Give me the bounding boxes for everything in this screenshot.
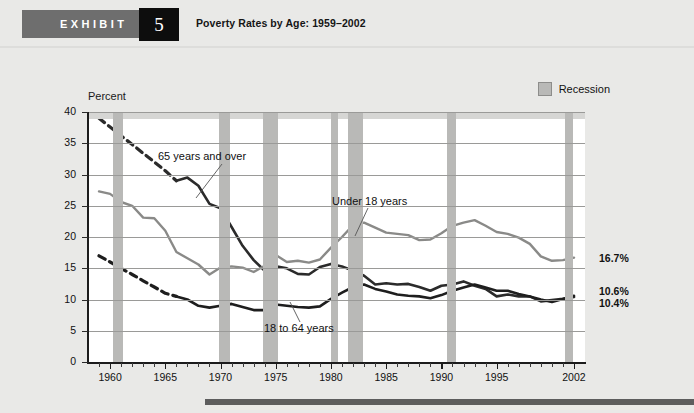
x-tick-mark-minor xyxy=(375,363,376,367)
gridline xyxy=(88,237,585,238)
chart-legend: Recession xyxy=(538,82,610,96)
legend-label-recession: Recession xyxy=(559,83,610,95)
x-tick-mark-minor xyxy=(408,363,409,367)
x-tick-mark-minor xyxy=(265,363,266,367)
annotation-65-and-over: 65 years and over xyxy=(158,150,246,162)
y-tick-label: 15 xyxy=(36,261,76,273)
y-tick-label: 20 xyxy=(36,230,76,242)
x-tick-mark-major xyxy=(165,363,166,369)
x-tick-mark-major xyxy=(110,363,111,369)
y-tick-mark xyxy=(82,268,88,269)
x-tick-mark-minor xyxy=(209,363,210,367)
x-tick-label: 1975 xyxy=(251,371,301,383)
page-title: Poverty Rates by Age: 1959–2002 xyxy=(196,17,366,29)
x-tick-mark-minor xyxy=(232,363,233,367)
x-tick-mark-minor xyxy=(353,363,354,367)
x-tick-mark-minor xyxy=(508,363,509,367)
y-tick-mark xyxy=(82,143,88,144)
x-tick-mark-minor xyxy=(254,363,255,367)
exhibit-page: EXHIBIT 5 Poverty Rates by Age: 1959–200… xyxy=(0,0,694,413)
poverty-rates-chart: Percent Recession 0510152025303540 19601… xyxy=(0,50,694,390)
series-line xyxy=(99,256,176,297)
x-tick-mark-minor xyxy=(320,363,321,367)
x-tick-mark-minor xyxy=(309,363,310,367)
y-tick-label: 35 xyxy=(36,136,76,148)
x-tick-mark-minor xyxy=(519,363,520,367)
x-tick-mark-minor xyxy=(475,363,476,367)
exhibit-number-box: 5 xyxy=(139,8,179,41)
x-tick-mark-minor xyxy=(298,363,299,367)
x-tick-mark-minor xyxy=(552,363,553,367)
y-tick-mark xyxy=(82,331,88,332)
end-label-65-and-over: 10.4% xyxy=(599,297,629,309)
x-tick-mark-minor xyxy=(364,363,365,367)
x-tick-mark-major xyxy=(386,363,387,369)
x-tick-mark-minor xyxy=(342,363,343,367)
gridline xyxy=(88,268,585,269)
x-tick-label: 1960 xyxy=(85,371,135,383)
x-tick-mark-minor xyxy=(430,363,431,367)
footer-bar xyxy=(205,399,694,405)
gridline xyxy=(88,331,585,332)
y-tick-label: 10 xyxy=(36,293,76,305)
exhibit-number: 5 xyxy=(139,8,179,41)
y-tick-mark xyxy=(82,237,88,238)
x-tick-label: 1990 xyxy=(416,371,466,383)
gridline xyxy=(88,112,585,113)
gridline xyxy=(88,143,585,144)
x-tick-mark-minor xyxy=(243,363,244,367)
x-axis xyxy=(87,362,586,364)
y-tick-mark xyxy=(82,362,88,363)
series-line xyxy=(176,285,574,311)
y-tick-mark xyxy=(82,206,88,207)
x-tick-mark-minor xyxy=(187,363,188,367)
x-tick-mark-major xyxy=(331,363,332,369)
y-tick-label: 25 xyxy=(36,199,76,211)
y-tick-label: 30 xyxy=(36,168,76,180)
y-tick-mark xyxy=(82,175,88,176)
x-tick-mark-minor xyxy=(464,363,465,367)
y-tick-label: 5 xyxy=(36,324,76,336)
x-tick-mark-minor xyxy=(452,363,453,367)
annotation-18-to-64: 18 to 64 years xyxy=(264,322,334,334)
x-tick-label: 1985 xyxy=(361,371,411,383)
x-tick-mark-major xyxy=(497,363,498,369)
recession-swatch xyxy=(538,82,552,96)
gridline xyxy=(88,300,585,301)
x-tick-mark-minor xyxy=(397,363,398,367)
y-tick-label: 40 xyxy=(36,105,76,117)
x-tick-mark-minor xyxy=(419,363,420,367)
x-tick-mark-major xyxy=(221,363,222,369)
x-tick-mark-minor xyxy=(132,363,133,367)
x-tick-label: 1995 xyxy=(472,371,522,383)
y-tick-mark xyxy=(82,300,88,301)
x-tick-mark-minor xyxy=(99,363,100,367)
y-tick-label: 0 xyxy=(36,355,76,367)
x-tick-label: 2002 xyxy=(549,371,599,383)
x-tick-mark-minor xyxy=(176,363,177,367)
annotation-under-18: Under 18 years xyxy=(332,195,407,207)
y-tick-mark xyxy=(82,112,88,113)
y-axis-label: Percent xyxy=(88,90,126,102)
x-tick-label: 1970 xyxy=(196,371,246,383)
x-tick-mark-minor xyxy=(143,363,144,367)
x-tick-mark-minor xyxy=(154,363,155,367)
end-label-under-18: 16.7% xyxy=(599,252,629,264)
x-tick-mark-minor xyxy=(287,363,288,367)
header-divider xyxy=(0,46,694,48)
x-tick-mark-major xyxy=(574,363,575,369)
end-label-18-to-64: 10.6% xyxy=(599,285,629,297)
x-tick-mark-major xyxy=(276,363,277,369)
x-tick-mark-minor xyxy=(121,363,122,367)
x-tick-mark-minor xyxy=(541,363,542,367)
x-tick-mark-minor xyxy=(563,363,564,367)
x-tick-label: 1965 xyxy=(140,371,190,383)
x-tick-mark-minor xyxy=(486,363,487,367)
x-tick-mark-minor xyxy=(198,363,199,367)
x-tick-label: 1980 xyxy=(306,371,356,383)
gridline xyxy=(88,175,585,176)
x-tick-mark-minor xyxy=(530,363,531,367)
x-tick-mark-major xyxy=(441,363,442,369)
